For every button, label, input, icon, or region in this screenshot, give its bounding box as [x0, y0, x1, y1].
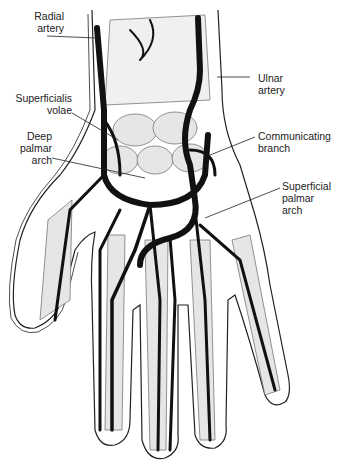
- label-deep-palmar-arch: Deep palmar arch: [0, 130, 52, 166]
- label-communicating-branch: Communicating branch: [258, 130, 331, 154]
- label-superficialis-volae: Superficialis volae: [0, 92, 72, 116]
- hand-arteries-illustration: [0, 0, 340, 469]
- label-ulnar-artery: Ulnar artery: [258, 72, 285, 96]
- label-superficial-palmar-arch: Superficial palmar arch: [282, 180, 331, 216]
- label-radial-artery: Radial artery: [12, 10, 64, 34]
